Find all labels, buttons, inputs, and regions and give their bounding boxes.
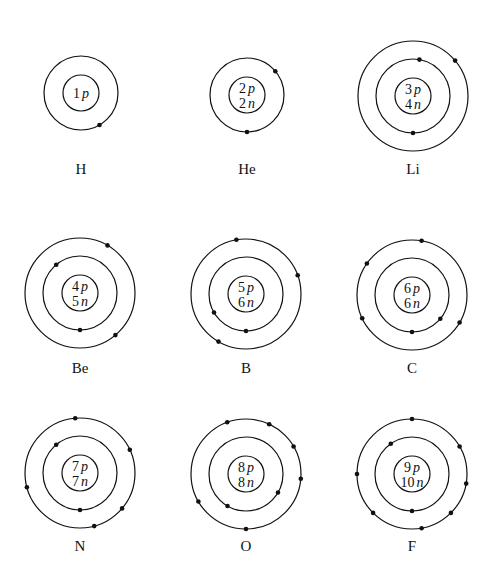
nucleus-protons-count: 8p <box>238 460 254 475</box>
electron-dot <box>411 131 416 136</box>
electron-dot <box>464 481 469 486</box>
electron-dot <box>216 339 221 344</box>
electron-shell-2 <box>191 419 301 529</box>
electron-dot <box>196 499 201 504</box>
nucleus <box>63 75 99 111</box>
nucleus-neutrons-count: 8n <box>238 475 254 490</box>
electron-dot <box>389 441 394 446</box>
element-symbol-label: Be <box>72 360 89 376</box>
electron-dot <box>410 509 415 514</box>
electron-shell-1 <box>209 437 283 511</box>
electron-dot <box>234 238 239 243</box>
nucleus <box>229 77 265 113</box>
electron-dot <box>417 57 422 62</box>
nucleus-neutrons-count: 5n <box>72 294 88 309</box>
electron-shell-1 <box>43 436 117 510</box>
electron-shell-1 <box>376 59 450 133</box>
atom-h: 1pH <box>44 56 118 177</box>
electron-dot <box>419 526 424 531</box>
electron-dot <box>78 508 83 513</box>
electron-dot <box>449 511 454 516</box>
nucleus-protons-count: 6p <box>404 281 420 296</box>
bohr-diagram: 1pH2p2nHe3p4nLi4p5nBe5p6nB6p6nC7p7nN8p8n… <box>0 0 493 584</box>
electron-dot <box>355 472 360 477</box>
element-symbol-label: F <box>408 538 416 554</box>
atom-f: 9p10nF <box>355 417 469 554</box>
electron-dot <box>92 524 97 529</box>
electron-dot <box>419 239 424 244</box>
element-symbol-label: B <box>241 360 251 376</box>
nucleus-neutrons-count: 2n <box>239 96 255 111</box>
element-symbol-label: Li <box>406 161 419 177</box>
nucleus-neutrons-count: 4n <box>405 97 421 112</box>
electron-shell-1 <box>209 257 283 331</box>
atom-o: 8p8nO <box>191 419 303 554</box>
electron-dot <box>365 261 370 266</box>
atom-c: 6p6nC <box>357 239 467 377</box>
electron-dot <box>276 490 281 495</box>
nucleus-neutrons-count: 7n <box>72 474 88 489</box>
nucleus <box>228 456 264 492</box>
nucleus-protons-count: 7p <box>72 459 88 474</box>
nucleus-protons-count: 5p <box>238 280 254 295</box>
electron-shell-1 <box>210 58 284 132</box>
nucleus-protons-count: 4p <box>72 279 88 294</box>
electron-dot <box>244 329 249 334</box>
electron-dot <box>225 504 230 509</box>
electron-dot <box>453 58 458 63</box>
nucleus <box>228 276 264 312</box>
electron-shell-1 <box>375 437 449 511</box>
electron-dot <box>97 123 102 128</box>
atom-li: 3p4nLi <box>358 41 468 177</box>
nucleus-protons-count: 1p <box>73 86 89 101</box>
electron-dot <box>457 320 462 325</box>
electron-shell-1 <box>43 256 117 330</box>
electron-dot <box>295 273 300 278</box>
nucleus-neutrons-count: 10n <box>401 475 424 490</box>
atom-b: 5p6nB <box>191 238 301 377</box>
electron-dot <box>73 416 78 421</box>
element-symbol-label: C <box>407 360 417 376</box>
nucleus-protons-count: 9p <box>404 460 420 475</box>
nucleus-neutrons-count: 6n <box>238 295 254 310</box>
electron-shell-1 <box>44 56 118 130</box>
nucleus <box>62 455 98 491</box>
atom-he: 2p2nHe <box>210 58 284 177</box>
electron-dot <box>371 511 376 516</box>
electron-dot <box>299 477 304 482</box>
electron-dot <box>128 448 133 453</box>
atom-n: 7p7nN <box>25 416 135 554</box>
electron-dot <box>54 442 59 447</box>
electron-dot <box>410 417 415 422</box>
element-symbol-label: O <box>241 538 252 554</box>
electron-dot <box>273 69 278 74</box>
electron-dot <box>457 444 462 449</box>
electron-dot <box>54 262 59 267</box>
atom-be: 4p5nBe <box>25 238 135 376</box>
nucleus-protons-count: 2p <box>239 81 255 96</box>
electron-dot <box>25 485 30 490</box>
nucleus <box>394 277 430 313</box>
nucleus-neutrons-count: 6n <box>404 296 420 311</box>
nucleus <box>395 78 431 114</box>
nucleus <box>62 275 98 311</box>
element-symbol-label: H <box>76 161 87 177</box>
electron-dot <box>267 422 272 427</box>
electron-dot <box>410 330 415 335</box>
electron-dot <box>105 243 110 248</box>
electron-dot <box>113 333 118 338</box>
electron-dot <box>212 310 217 315</box>
electron-dot <box>78 328 83 333</box>
electron-dot <box>291 444 296 449</box>
electron-dot <box>360 316 365 321</box>
element-symbol-label: N <box>75 538 86 554</box>
electron-dot <box>225 420 230 425</box>
electron-dot <box>245 130 250 135</box>
electron-shell-1 <box>375 258 449 332</box>
electron-dot <box>244 527 249 532</box>
nucleus-protons-count: 3p <box>405 82 421 97</box>
electron-dot <box>438 317 443 322</box>
electron-dot <box>120 506 125 511</box>
element-symbol-label: He <box>238 161 256 177</box>
